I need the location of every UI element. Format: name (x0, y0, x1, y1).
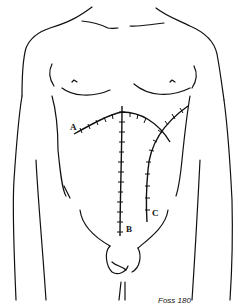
torso-outline (13, 7, 232, 300)
torso-diagram: A B (0, 0, 238, 308)
label-b: B (126, 224, 132, 234)
artist-signature: Foss 180 (158, 296, 191, 305)
label-c: C (152, 208, 159, 218)
incision-a: A (70, 112, 170, 142)
incision-b: B (117, 106, 132, 236)
label-a: A (70, 122, 77, 132)
